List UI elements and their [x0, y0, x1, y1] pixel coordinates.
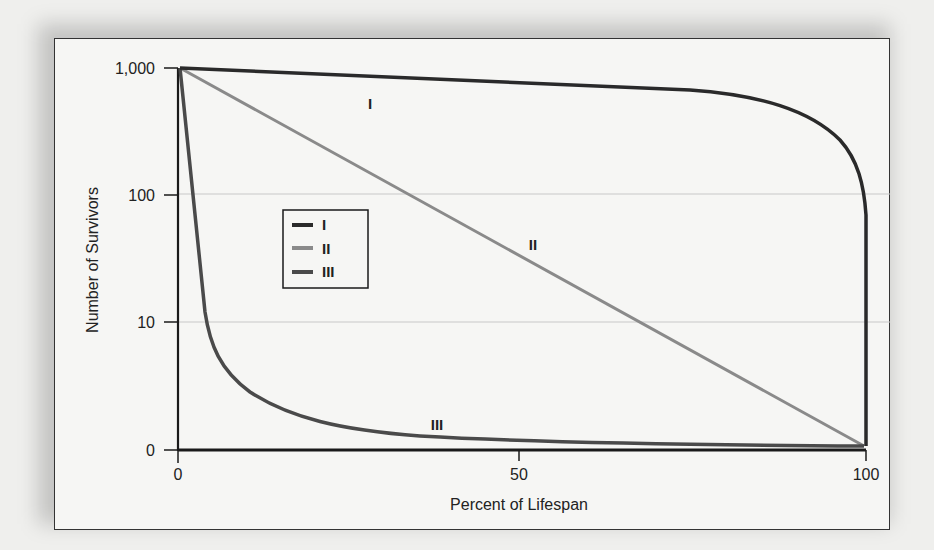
x-tick-label-50: 50 [510, 466, 528, 483]
y-tick-label-1000: 1,000 [115, 60, 155, 77]
x-axis-title: Percent of Lifespan [450, 496, 588, 513]
legend: I II III [283, 210, 368, 288]
y-tick-label-10: 10 [137, 314, 155, 331]
y-tick-label-100: 100 [128, 187, 155, 204]
curve-label-iii: III [431, 416, 444, 433]
legend-label-i: I [322, 216, 326, 233]
y-axis-title: Number of Survivors [84, 187, 101, 333]
curve-label-ii: II [529, 236, 537, 253]
x-tick-label-0: 0 [174, 466, 183, 483]
curve-label-i: I [368, 95, 372, 112]
legend-label-iii: III [322, 263, 335, 280]
x-tick-label-100: 100 [853, 466, 880, 483]
survivorship-chart: 1,000 100 10 0 0 50 100 Percent of Lifes… [0, 0, 934, 550]
legend-label-ii: II [322, 240, 330, 257]
y-tick-label-0: 0 [146, 442, 155, 459]
